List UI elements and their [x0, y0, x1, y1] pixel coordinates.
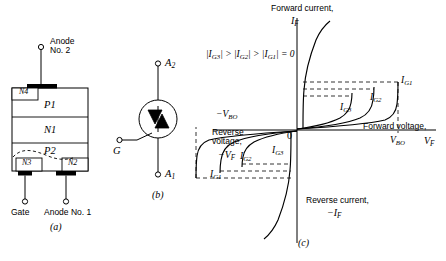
reverse-voltage-axis-label: Reverse voltage,	[212, 128, 244, 146]
vf-symbol: VF	[424, 136, 435, 149]
anode1-terminal-dot	[63, 199, 68, 204]
ig1-q3-sub: G1	[213, 173, 221, 180]
forward-voltage-axis-label: Forward voltage,	[363, 122, 426, 131]
ig3-q3-sub: G3	[275, 149, 283, 156]
panel-c-id: (c)	[298, 238, 309, 249]
layer-label-p1: P1	[44, 99, 56, 110]
vbo-negative-label: −VBO	[216, 110, 237, 120]
anode2-terminal-dot	[38, 44, 43, 49]
a2-terminal-dot	[155, 61, 160, 66]
layer-label-n1: N1	[44, 124, 56, 135]
origin-label: 0	[287, 131, 292, 142]
a1-label: A1	[165, 168, 175, 181]
ineq-sub-g1: G1	[268, 53, 276, 60]
ig1-q1-sub: G1	[404, 79, 412, 86]
vbo-positive-label: VBO	[390, 136, 405, 146]
curve-label-ig3-q1: IG3	[340, 103, 352, 113]
vbo-neg-letter: −V	[216, 109, 228, 119]
triac-figure: Anode No. 2 N4 P1 N1 P2 N3 N2 Gate Anode…	[0, 0, 446, 261]
a1-terminal-dot	[155, 172, 160, 177]
anode1-metal-contact	[56, 171, 76, 176]
vf-sub: F	[430, 140, 434, 148]
minus-vf-letter: −V	[218, 149, 231, 160]
curve-label-ig2-q1: IG2	[370, 93, 382, 103]
reverse-current-text: Reverse current,	[306, 195, 369, 205]
minus-if-symbol: −IF	[327, 208, 341, 221]
minus-if-sub: F	[337, 212, 341, 220]
layer-label-n3: N3	[22, 159, 31, 167]
a2-label: A2	[165, 57, 175, 70]
minus-if-letter: −I	[327, 207, 337, 218]
vbo-pos-sub: BO	[396, 139, 405, 146]
layer-label-p2: P2	[44, 145, 56, 156]
ineq-sub-g2: G2	[240, 53, 248, 60]
ineq-sub-g3: G3	[212, 53, 220, 60]
ineq-part-2: | > |I	[220, 49, 240, 59]
ig2-q1-sub: G2	[373, 96, 381, 103]
curve-label-ig2-q3: IG2	[240, 152, 252, 162]
gate-terminal-dot-b	[117, 137, 122, 142]
gate-current-inequality: |IG3| > |IG2| > |IG1| = 0	[206, 50, 295, 60]
ig3-q1-sub: G3	[343, 106, 351, 113]
ineq-part-6: | = 0	[276, 49, 295, 59]
gate-terminal-dot	[22, 199, 27, 204]
anode2-label: Anode No. 2	[50, 37, 75, 55]
layer-label-n2: N2	[68, 159, 77, 167]
a2-label-sub: 2	[171, 61, 175, 70]
layer-label-n4: N4	[19, 88, 28, 96]
forward-current-axis-label: Forward current,	[271, 4, 333, 13]
panel-a-id: (a)	[50, 222, 62, 233]
gate-metal-contact	[18, 171, 32, 176]
if-symbol: IF	[291, 16, 299, 29]
ig2-q3-sub: G2	[243, 155, 251, 162]
ineq-part-4: | > |I	[248, 49, 268, 59]
curve-label-ig3-q3: IG3	[272, 146, 284, 156]
curve-on-state-quadrant-1	[303, 21, 330, 128]
forward-current-text: Forward current,	[271, 3, 333, 13]
minus-vf-symbol: −VF	[218, 150, 235, 163]
gate-label-b: G	[113, 145, 121, 156]
gate-label: Gate	[11, 208, 29, 217]
reverse-voltage-line2: voltage,	[212, 136, 242, 146]
if-sub: F	[294, 20, 298, 28]
forward-voltage-text: Forward voltage,	[363, 121, 426, 131]
curve-label-ig1-q3: IG1	[210, 170, 222, 180]
panel-b-symbol	[117, 61, 177, 177]
minus-vf-sub: F	[231, 154, 235, 162]
anode2-label-line2: No. 2	[50, 45, 70, 55]
a1-label-sub: 1	[171, 172, 175, 181]
panel-b-id: (b)	[152, 190, 164, 201]
curve-label-ig1-q1: IG1	[401, 76, 413, 86]
vbo-neg-sub: BO	[228, 113, 237, 120]
anode1-label: Anode No. 1	[44, 208, 91, 217]
reverse-current-axis-label: Reverse current,	[306, 196, 369, 205]
